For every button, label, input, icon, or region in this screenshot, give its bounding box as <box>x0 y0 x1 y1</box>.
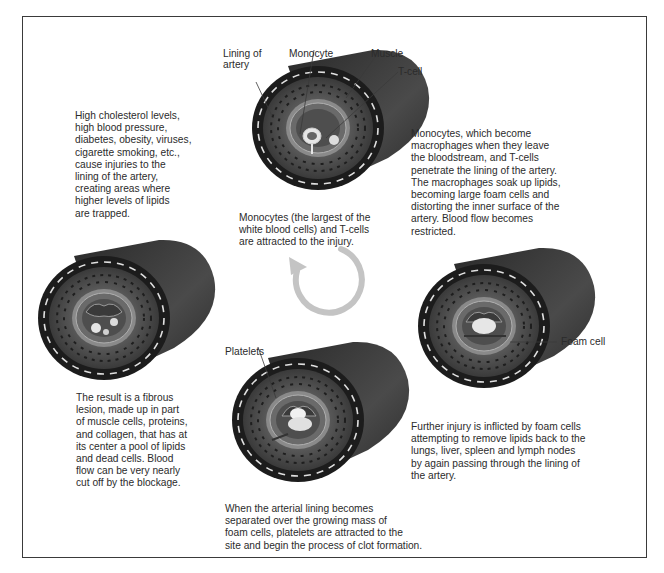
stage-1-description: High cholesterol levels, high blood pres… <box>75 110 191 220</box>
label-t-cell: T-cell <box>398 66 422 77</box>
artery-stage-6 <box>38 240 215 380</box>
artery-stage-5 <box>232 342 409 482</box>
label-monocyte: Monocyte <box>289 48 333 59</box>
stage-3-description: Monocytes, which become macrophages when… <box>411 128 561 238</box>
stage-5-description: When the arterial lining becomes separat… <box>225 503 422 552</box>
label-foam-cell: Foam cell <box>561 336 605 347</box>
label-muscle: Muscle <box>371 48 403 59</box>
stage-2-description: Monocytes (the largest of the white bloo… <box>239 212 370 249</box>
stage-4-description: Further injury is inflicted by foam cell… <box>411 421 585 482</box>
label-lining-of-artery: Lining of artery <box>223 48 262 70</box>
label-platelets: Platelets <box>225 346 264 357</box>
artery-stage-4 <box>418 248 595 388</box>
cycle-arrow-icon <box>289 249 362 313</box>
stage-6-description: The result is a fibrous lesion, made up … <box>76 392 188 490</box>
